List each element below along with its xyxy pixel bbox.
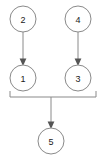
edge-join-to-5: [48, 97, 55, 129]
node-1-label: 1: [20, 74, 25, 84]
graph-diagram: 2 4 1 3 5: [0, 0, 104, 157]
edge-2-to-1: [20, 32, 27, 66]
edge-4-to-3: [75, 32, 82, 66]
diagram-canvas: 2 4 1 3 5: [0, 0, 104, 157]
node-4[interactable]: 4: [65, 6, 91, 32]
join-bar-group: [10, 91, 96, 97]
node-2[interactable]: 2: [10, 6, 36, 32]
node-3[interactable]: 3: [65, 65, 91, 91]
node-3-label: 3: [75, 74, 80, 84]
node-1[interactable]: 1: [10, 65, 36, 91]
node-2-label: 2: [20, 15, 25, 25]
node-4-label: 4: [75, 15, 80, 25]
node-5[interactable]: 5: [38, 128, 64, 154]
node-5-label: 5: [48, 137, 53, 147]
